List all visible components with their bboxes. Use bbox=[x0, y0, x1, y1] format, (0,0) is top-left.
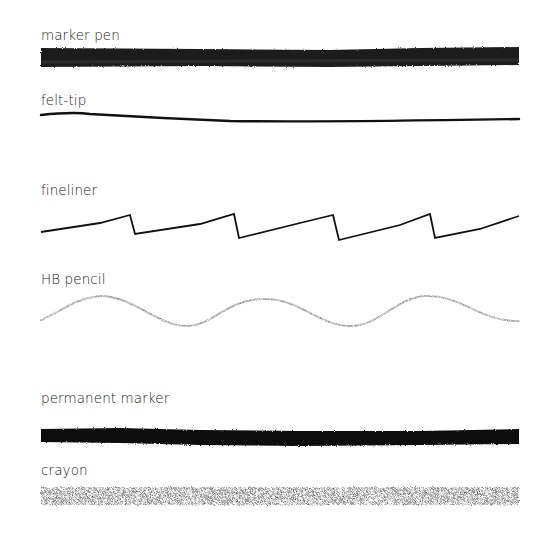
hb-pencil-stroke bbox=[41, 296, 519, 326]
strokes-canvas bbox=[0, 0, 535, 535]
marker-pen-stroke bbox=[41, 47, 519, 67]
felt-tip-stroke bbox=[41, 113, 519, 121]
crayon-stroke bbox=[41, 487, 519, 505]
permanent-marker-stroke bbox=[41, 428, 519, 446]
fineliner-stroke bbox=[41, 214, 519, 240]
